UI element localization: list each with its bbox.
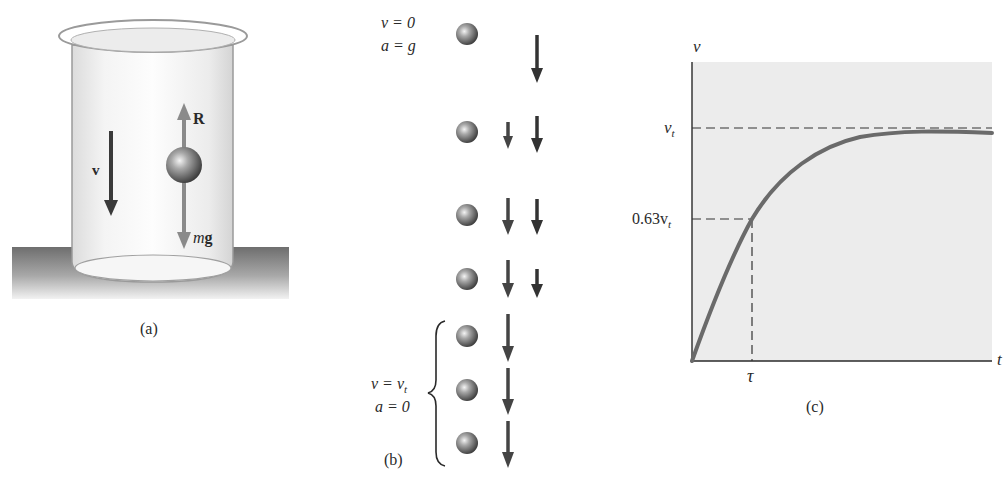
terminal-brace: [428, 321, 445, 466]
panel-a-beaker: v R mg (a): [12, 20, 289, 338]
ball-4: [456, 268, 478, 290]
ball-5: [456, 325, 478, 347]
tau-label: τ: [747, 366, 754, 386]
panel-b-sequence: v = 0 a = g v = vt a =: [371, 14, 543, 469]
weight-label-m: m: [193, 229, 205, 246]
weight-label-g: g: [205, 229, 213, 247]
velocity-label: v: [92, 162, 100, 178]
caption-a: (a): [140, 320, 158, 338]
ball-3: [456, 204, 478, 226]
ball-1: [456, 23, 478, 45]
y-axis-label: v: [693, 37, 701, 56]
fraction-label: 0.63vt: [632, 210, 672, 230]
velocity-arrows: [502, 122, 514, 468]
acceleration-arrows: [531, 35, 543, 298]
x-axis-label: t: [997, 350, 1003, 369]
initial-state-velocity: v = 0: [381, 14, 415, 31]
ball-2: [456, 121, 478, 143]
resistive-force-label: R: [193, 110, 205, 127]
initial-state-acceleration: a = g: [381, 37, 416, 55]
caption-b: (b): [384, 451, 403, 469]
terminal-state-velocity: v = vt: [371, 375, 408, 395]
terminal-state-acceleration: a = 0: [375, 398, 410, 415]
beaker-rim-inner: [71, 28, 235, 52]
plot-background: [692, 62, 992, 361]
beaker-bottom: [75, 255, 231, 281]
ball-7: [456, 432, 478, 454]
sphere: [166, 147, 202, 183]
terminal-velocity-label: vt: [664, 118, 676, 139]
panel-c-chart: v t vt 0.63vt τ (c): [632, 37, 1003, 416]
caption-c: (c): [806, 398, 824, 416]
ball-6: [456, 379, 478, 401]
weight-label: mg: [193, 229, 213, 247]
figure-canvas: v R mg (a) v = 0 a = g: [0, 0, 1005, 482]
